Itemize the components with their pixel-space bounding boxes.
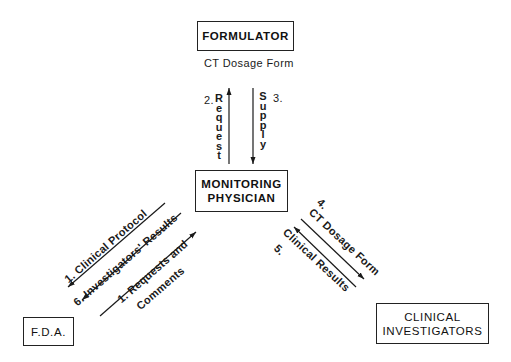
clinical-investigators-label-line1: CLINICAL xyxy=(404,310,461,324)
formulator-caption: CT Dosage Form xyxy=(204,57,294,69)
supply-vertical-label: S u p p l y xyxy=(258,92,268,149)
request-number: 2. xyxy=(204,94,214,106)
formulator-label: FORMULATOR xyxy=(202,29,289,43)
fda-label: F.D.A. xyxy=(31,325,66,339)
formulator-box: FORMULATOR xyxy=(197,21,294,51)
monitoring-physician-box: MONITORING PHYSICIAN xyxy=(195,170,288,212)
monitoring-physician-label-line2: PHYSICIAN xyxy=(207,191,275,205)
fda-box: F.D.A. xyxy=(23,317,74,346)
request-vertical-label: R e q u e s t xyxy=(214,94,224,161)
clinical-investigators-label-line2: INVESTIGATORS xyxy=(382,324,482,338)
supply-number: 3. xyxy=(273,92,283,104)
monitoring-physician-label-line1: MONITORING xyxy=(201,177,282,191)
clinical-investigators-box: CLINICAL INVESTIGATORS xyxy=(376,303,489,344)
